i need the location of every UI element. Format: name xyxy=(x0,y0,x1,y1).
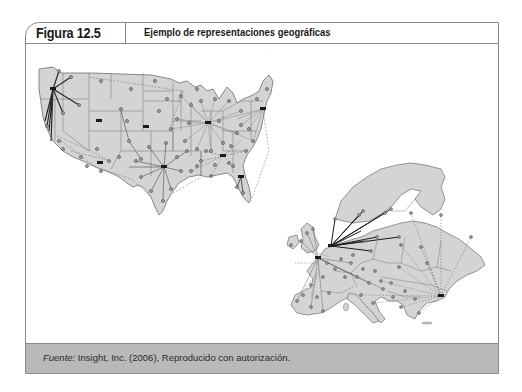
europe-crete xyxy=(422,322,432,324)
figure-box: Figura 12.5 Ejemplo de representaciones … xyxy=(25,22,499,374)
united-states-map xyxy=(39,67,273,215)
europe-mainland xyxy=(291,221,485,323)
europe-ireland xyxy=(287,235,299,249)
source-label: Fuente: xyxy=(43,352,75,363)
maps-illustration xyxy=(26,44,498,344)
header-separator xyxy=(125,23,126,44)
europe-sardinia xyxy=(344,303,349,311)
source-text: Insight, Inc. (2006), Reproducido con au… xyxy=(75,352,290,363)
europe-scandinavia xyxy=(335,163,445,223)
figure-title: Ejemplo de representaciones geográficas xyxy=(144,26,331,38)
figure-footer: Fuente: Insight, Inc. (2006), Reproducid… xyxy=(26,343,498,373)
source-credit: Fuente: Insight, Inc. (2006), Reproducid… xyxy=(43,352,290,363)
europe-map xyxy=(287,163,485,324)
us-landmass xyxy=(39,67,273,215)
figure-number: Figura 12.5 xyxy=(36,24,101,41)
figure-header: Figura 12.5 Ejemplo de representaciones … xyxy=(26,23,498,44)
